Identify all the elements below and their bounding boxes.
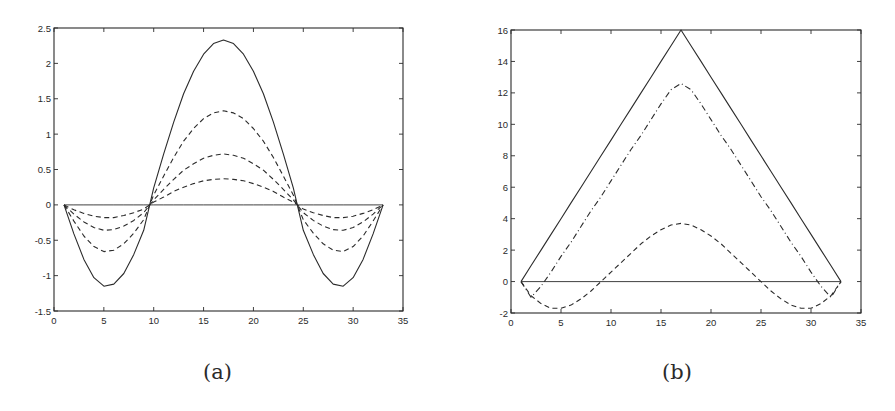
y-tick-label: 14: [497, 56, 508, 67]
y-tick-label: 8: [503, 150, 508, 161]
series-solid-triangle: [521, 30, 841, 282]
y-tick-label: 0.5: [38, 164, 51, 175]
y-tick-label: 1.5: [38, 93, 51, 104]
x-tick-label: 5: [101, 315, 106, 326]
caption-a: (a): [203, 360, 232, 384]
y-tick-label: 2: [46, 58, 51, 69]
x-tick-label: 0: [51, 315, 56, 326]
y-tick-label: 6: [503, 182, 508, 193]
x-tick-label: 10: [148, 315, 159, 326]
x-tick-label: 15: [198, 315, 209, 326]
y-tick-label: 16: [497, 25, 508, 36]
y-tick-label: 2.5: [38, 23, 51, 34]
series-dashed-curve-3: [64, 179, 383, 218]
chart-a: 05101520253035-1.5-1-0.500.511.522.5: [35, 23, 409, 327]
y-tick-label: 2: [503, 245, 508, 256]
figure-canvas: 05101520253035-1.5-1-0.500.511.522.5 051…: [0, 0, 895, 411]
x-tick-label: 15: [656, 317, 667, 328]
axes-frame: [511, 30, 861, 313]
x-tick-label: 20: [706, 317, 717, 328]
x-tick-label: 5: [558, 317, 563, 328]
y-tick-label: 0: [46, 199, 51, 210]
x-tick-label: 20: [248, 315, 259, 326]
y-tick-label: 10: [497, 119, 508, 130]
x-tick-label: 25: [298, 315, 309, 326]
x-tick-label: 35: [398, 315, 409, 326]
y-tick-label: 0: [503, 276, 508, 287]
y-tick-label: -1.5: [35, 306, 51, 317]
series-solid-curve: [64, 40, 383, 286]
series-dashed-curve: [521, 223, 841, 308]
y-tick-label: -0.5: [35, 235, 51, 246]
x-tick-label: 35: [856, 317, 867, 328]
x-tick-label: 0: [508, 317, 513, 328]
x-tick-label: 10: [606, 317, 617, 328]
x-tick-label: 25: [756, 317, 767, 328]
y-tick-label: -2: [500, 308, 508, 319]
series-dashed-curve-2: [64, 154, 383, 230]
caption-b: (b): [662, 360, 692, 384]
y-tick-label: -1: [43, 270, 51, 281]
x-tick-label: 30: [806, 317, 817, 328]
y-tick-label: 4: [503, 213, 508, 224]
y-tick-label: 12: [497, 87, 508, 98]
series-dashed-curve-1: [64, 111, 383, 252]
x-tick-label: 30: [348, 315, 359, 326]
series-dashdot-curve: [521, 84, 841, 298]
y-tick-label: 1: [46, 129, 51, 140]
chart-b: 05101520253035-20246810121416: [497, 25, 866, 329]
axes-frame: [54, 28, 403, 311]
